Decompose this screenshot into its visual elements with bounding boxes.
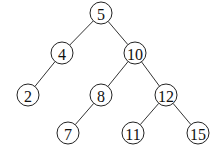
node-label: 4: [58, 46, 66, 63]
tree-node: 4: [51, 42, 73, 64]
tree-node: 10: [124, 42, 146, 64]
tree-edge: [108, 21, 128, 44]
tree-node: 15: [187, 122, 209, 144]
tree-node: 7: [57, 122, 79, 144]
node-label: 11: [125, 126, 140, 143]
tree-node: 5: [90, 2, 112, 24]
node-label: 2: [24, 88, 32, 105]
node-label: 12: [158, 88, 174, 105]
tree-edge: [173, 103, 191, 124]
binary-tree-diagram: 5410281271115: [0, 0, 215, 154]
tree-edge: [75, 103, 94, 124]
edges: [35, 21, 191, 125]
tree-node: 8: [90, 84, 112, 106]
node-label: 8: [97, 88, 105, 105]
tree-node: 11: [122, 122, 144, 144]
tree-edge: [108, 62, 128, 87]
node-label: 5: [97, 6, 105, 23]
tree-node: 12: [155, 84, 177, 106]
node-label: 15: [190, 126, 206, 143]
tree-node: 2: [17, 84, 39, 106]
tree-edge: [140, 103, 159, 124]
tree-edge: [142, 62, 160, 86]
node-label: 10: [127, 46, 143, 63]
tree-edge: [70, 21, 94, 45]
tree-edge: [35, 62, 55, 87]
node-label: 7: [64, 126, 72, 143]
